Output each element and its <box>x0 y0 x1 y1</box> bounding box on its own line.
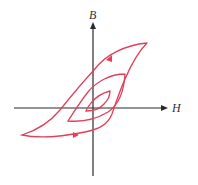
h-axis-arrow-icon <box>161 105 168 111</box>
hysteresis-diagram: H B <box>0 0 198 185</box>
b-axis-arrow-icon <box>90 22 96 29</box>
outer-loop <box>22 43 147 137</box>
h-axis-label: H <box>171 101 182 115</box>
b-axis-label: B <box>89 8 97 22</box>
